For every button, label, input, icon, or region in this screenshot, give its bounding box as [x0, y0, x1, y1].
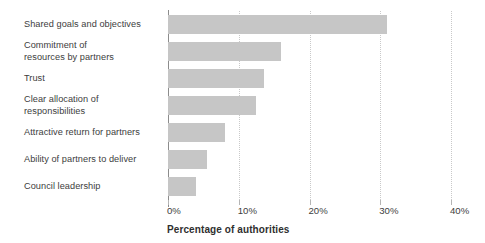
tick-label: 0%	[167, 205, 181, 216]
tick-label: 20%	[309, 205, 328, 216]
gridline-20%	[310, 11, 311, 200]
bar	[168, 123, 225, 142]
category-axis-labels: Shared goals and objectivesCommitment of…	[0, 11, 160, 200]
bar	[168, 15, 387, 34]
gridline-40%	[451, 11, 452, 200]
x-axis-title: Percentage of authorities	[167, 224, 290, 235]
tick-label: 10%	[238, 205, 257, 216]
bar	[168, 177, 196, 196]
category-label: Council leadership	[24, 181, 160, 193]
gridline-30%	[380, 11, 381, 200]
x-axis-tick-labels: 0%10%20%30%40%	[0, 205, 485, 221]
category-label: Commitment of resources by partners	[24, 40, 160, 63]
category-label: Attractive return for partners	[24, 127, 160, 139]
bar	[168, 42, 281, 61]
category-label: Ability of partners to deliver	[24, 154, 160, 166]
category-label: Clear allocation of responsibilities	[24, 94, 160, 117]
tick-label: 40%	[450, 205, 469, 216]
bar	[168, 150, 207, 169]
tick-label: 30%	[379, 205, 398, 216]
bar	[168, 69, 264, 88]
bar-chart: Shared goals and objectivesCommitment of…	[0, 0, 485, 243]
bar	[168, 96, 256, 115]
plot-area	[168, 11, 451, 200]
category-label: Trust	[24, 73, 160, 85]
category-label: Shared goals and objectives	[24, 19, 160, 31]
